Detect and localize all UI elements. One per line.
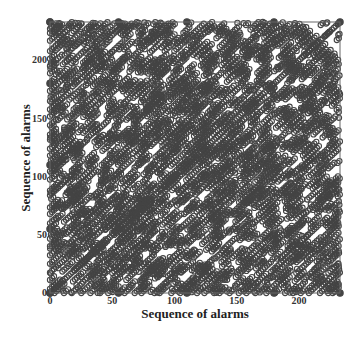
y-axis-label: Sequence of alarms <box>18 104 33 212</box>
x-axis-ticks: 050100150200 <box>48 295 307 306</box>
x-tick-label: 100 <box>167 295 182 306</box>
y-tick-label: 150 <box>32 113 47 124</box>
y-tick-label: 100 <box>32 171 47 182</box>
y-tick-label: 200 <box>32 54 47 65</box>
recurrence-scatter-chart: 050100150200 050100150200 Sequence of al… <box>0 0 359 337</box>
y-axis-ticks: 050100150200 <box>32 54 47 298</box>
x-tick-label: 200 <box>291 295 306 306</box>
x-tick-label: 50 <box>107 295 117 306</box>
x-tick-label: 150 <box>229 295 244 306</box>
y-tick-label: 50 <box>37 229 47 240</box>
data-points <box>47 19 343 296</box>
x-axis-label: Sequence of alarms <box>141 306 249 321</box>
y-tick-label: 0 <box>42 287 47 298</box>
x-tick-label: 0 <box>48 295 53 306</box>
